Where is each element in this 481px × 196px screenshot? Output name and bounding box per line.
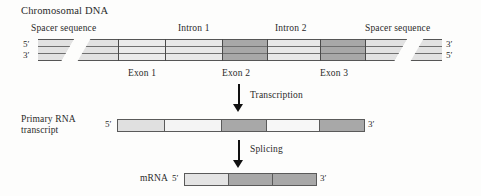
dna-strand-line-2: [38, 53, 442, 54]
mrna-right-3-prime: 3′: [320, 173, 326, 183]
rna-segment-exon-1: [118, 120, 165, 131]
rna-left-5-prime: 5′: [105, 119, 111, 129]
dna-top-edge: [38, 39, 442, 40]
mrna-segment-exon-3: [273, 174, 316, 185]
transcription-arrow: [233, 84, 244, 112]
dna-segment-exon-2: [222, 39, 267, 61]
dna-segment-exon-1: [118, 39, 165, 61]
dna-right-3-prime: 3′: [446, 39, 452, 49]
primary-rna-title-line1: Primary RNA: [21, 114, 76, 125]
label-intron-1: Intron 1: [178, 23, 210, 34]
label-exon-1: Exon 1: [128, 68, 156, 79]
chromosomal-dna-bar: [38, 39, 442, 61]
dna-divider-3: [222, 39, 223, 61]
dna-segment-exon-3: [320, 39, 365, 61]
mrna-segment-exon-1: [185, 174, 229, 185]
mrna-title: mRNA: [140, 173, 168, 184]
label-exon-3: Exon 3: [320, 68, 348, 79]
rna-right-3-prime: 3′: [368, 119, 374, 129]
dna-strand-line-1: [38, 46, 442, 47]
dna-bottom-edge: [38, 60, 442, 61]
mrna-left-5-prime: 5′: [172, 173, 178, 183]
label-intron-2: Intron 2: [275, 23, 307, 34]
chromosomal-dna-title: Chromosomal DNA: [21, 5, 108, 16]
rna-segment-exon-3: [320, 120, 364, 131]
label-splicing: Splicing: [250, 144, 283, 155]
dna-segment-intron-1: [165, 39, 222, 61]
label-exon-2: Exon 2: [222, 68, 250, 79]
label-spacer-sequence-right: Spacer sequence: [365, 23, 430, 34]
dna-divider-1: [118, 39, 119, 61]
rna-segment-exon-2: [222, 120, 267, 131]
splicing-arrow: [233, 140, 244, 168]
mrna-segment-exon-2: [229, 174, 272, 185]
rna-segment-intron-1: [165, 120, 222, 131]
rna-segment-intron-2: [267, 120, 320, 131]
mrna-bar: [184, 173, 317, 186]
dna-divider-6: [365, 39, 366, 61]
dna-left-3-prime: 3′: [23, 50, 29, 60]
dna-divider-5: [320, 39, 321, 61]
label-transcription: Transcription: [250, 90, 303, 101]
primary-rna-title-line2: transcript: [21, 125, 58, 136]
transcription-splicing-diagram: Chromosomal DNA Spacer sequence Intron 1…: [0, 0, 481, 196]
label-spacer-sequence-left: Spacer sequence: [31, 23, 96, 34]
dna-divider-2: [165, 39, 166, 61]
dna-left-5-prime: 5′: [23, 39, 29, 49]
dna-segment-intron-2: [267, 39, 320, 61]
dna-right-5-prime: 5′: [446, 50, 452, 60]
dna-divider-4: [267, 39, 268, 61]
primary-rna-bar: [117, 119, 365, 132]
